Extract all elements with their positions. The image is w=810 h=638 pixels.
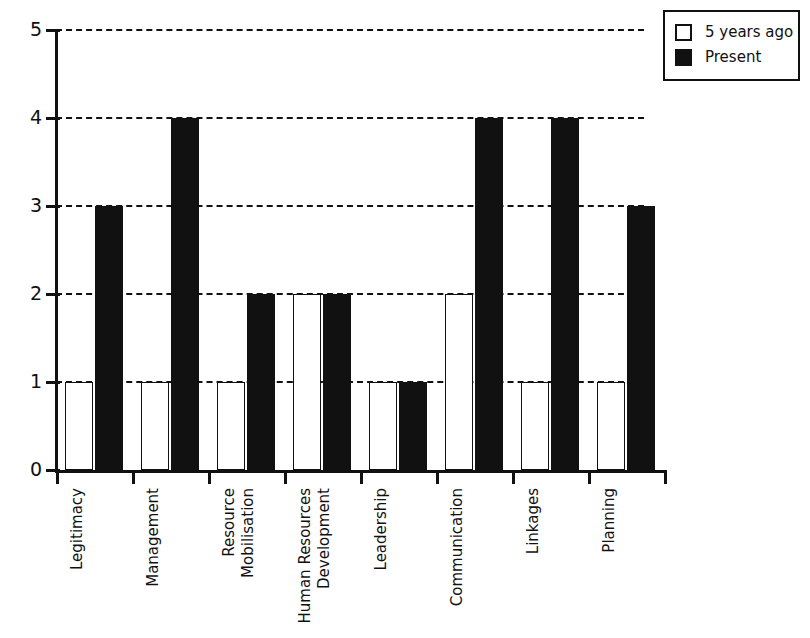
legend-label-present: Present xyxy=(705,49,761,66)
bar-group xyxy=(56,30,132,470)
x-axis-label: Legitimacy xyxy=(69,488,86,570)
bar-present xyxy=(475,118,503,470)
x-axis-label: Resource xyxy=(221,488,238,557)
y-tick-label: 1 xyxy=(12,372,42,391)
x-tick-mark xyxy=(284,470,287,484)
legend: 5 years ago Present xyxy=(663,10,800,81)
bar-past xyxy=(369,382,397,470)
bar-group xyxy=(588,30,664,470)
bar-group xyxy=(512,30,588,470)
x-axis-label: Management xyxy=(145,488,162,587)
bar-present xyxy=(95,206,123,470)
bar-past xyxy=(293,294,321,470)
x-axis-label: Communication xyxy=(449,488,466,606)
bar-group xyxy=(360,30,436,470)
bar-present xyxy=(551,118,579,470)
bar-past xyxy=(597,382,625,470)
bar-group xyxy=(208,30,284,470)
bar-group xyxy=(436,30,512,470)
x-tick-mark xyxy=(56,470,59,484)
bar-group xyxy=(132,30,208,470)
x-tick-mark xyxy=(360,470,363,484)
x-tick-mark xyxy=(588,470,591,484)
bars-layer xyxy=(56,30,664,470)
bar-present xyxy=(399,382,427,470)
y-tick-label: 5 xyxy=(12,20,42,39)
x-tick-mark xyxy=(208,470,211,484)
bar-present xyxy=(247,294,275,470)
x-axis-label: Mobilisation xyxy=(240,488,257,578)
bar-past xyxy=(521,382,549,470)
x-tick-mark xyxy=(132,470,135,484)
x-tick-mark xyxy=(512,470,515,484)
legend-swatch-past-icon xyxy=(675,24,692,41)
y-tick-label: 3 xyxy=(12,196,42,215)
x-axis-label: Planning xyxy=(601,488,618,553)
bar-present xyxy=(323,294,351,470)
legend-label-past: 5 years ago xyxy=(705,24,793,41)
legend-swatch-present-icon xyxy=(675,49,692,66)
bar-group xyxy=(284,30,360,470)
bar-chart: 012345 LegitimacyManagementResourceMobil… xyxy=(0,0,810,638)
x-axis-label: Development xyxy=(316,488,333,589)
legend-item-present: Present xyxy=(675,45,788,70)
x-tick-mark xyxy=(664,470,667,484)
bar-present xyxy=(171,118,199,470)
bar-past xyxy=(445,294,473,470)
bar-present xyxy=(627,206,655,470)
y-tick-label: 2 xyxy=(12,284,42,303)
x-axis-label: Leadership xyxy=(373,488,390,570)
x-axis-label: Human Resources xyxy=(297,488,314,623)
bar-past xyxy=(65,382,93,470)
x-axis-label: Linkages xyxy=(525,488,542,554)
bar-past xyxy=(217,382,245,470)
y-tick-label: 0 xyxy=(12,460,42,479)
legend-item-past: 5 years ago xyxy=(675,20,788,45)
x-tick-mark xyxy=(436,470,439,484)
bar-past xyxy=(141,382,169,470)
y-tick-label: 4 xyxy=(12,108,42,127)
